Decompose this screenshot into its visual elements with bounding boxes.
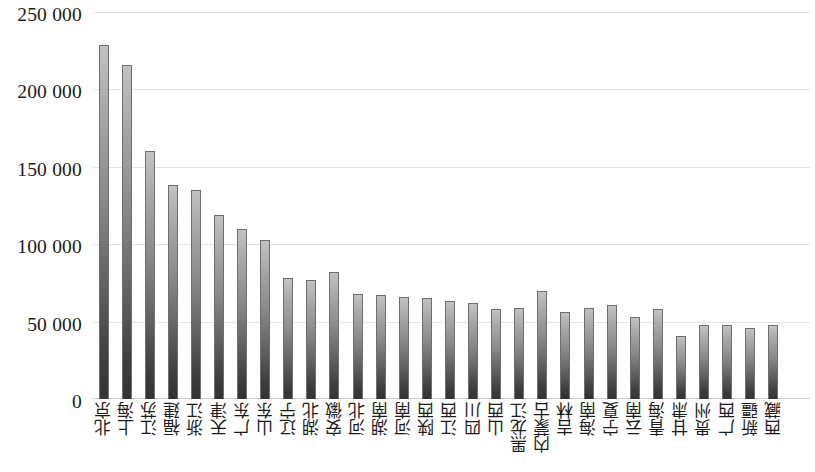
- bar-slot: [554, 12, 577, 399]
- x-tick-slot: 山西: [485, 402, 508, 472]
- bar[interactable]: [722, 325, 732, 399]
- x-tick-label: 云南: [626, 402, 643, 436]
- bar-slot: [369, 12, 392, 399]
- x-tick-label: 浙江: [187, 402, 204, 436]
- x-tick-slot: 湖北: [300, 402, 323, 472]
- bar-slot: [161, 12, 184, 399]
- bar[interactable]: [260, 240, 270, 399]
- x-tick-label: 安徽: [326, 402, 343, 436]
- bar[interactable]: [283, 278, 293, 399]
- bar[interactable]: [607, 305, 617, 399]
- bar[interactable]: [514, 308, 524, 399]
- bar[interactable]: [168, 185, 178, 399]
- x-tick-slot: 河北: [346, 402, 369, 472]
- bar[interactable]: [768, 325, 778, 399]
- bar[interactable]: [214, 215, 224, 399]
- x-tick-label: 河南: [395, 402, 412, 436]
- x-tick-slot: 浙江: [184, 402, 207, 472]
- y-tick-label: 50 000: [27, 314, 82, 336]
- bar[interactable]: [653, 309, 663, 399]
- bar[interactable]: [329, 272, 339, 399]
- bar[interactable]: [353, 294, 363, 399]
- bar[interactable]: [745, 328, 755, 399]
- bar-slot: [300, 12, 323, 399]
- x-tick-label: 陕西: [418, 402, 435, 436]
- bar[interactable]: [376, 295, 386, 399]
- x-tick-slot: 辽宁: [277, 402, 300, 472]
- y-tick-label: 250 000: [17, 4, 82, 26]
- x-tick-label: 内蒙古: [534, 402, 551, 453]
- bar[interactable]: [699, 325, 709, 399]
- bar[interactable]: [630, 317, 640, 399]
- x-tick-label: 福建: [164, 402, 181, 436]
- x-tick-slot: 西藏: [762, 402, 785, 472]
- bar-slot: [692, 12, 715, 399]
- x-tick-label: 江苏: [141, 402, 158, 436]
- x-tick-slot: 吉林: [554, 402, 577, 472]
- x-tick-label: 上海: [118, 402, 135, 436]
- bar-slot: [646, 12, 669, 399]
- x-tick-slot: 福建: [161, 402, 184, 472]
- x-tick-label: 河北: [349, 402, 366, 436]
- bar[interactable]: [399, 297, 409, 399]
- x-tick-label: 吉林: [557, 402, 574, 436]
- x-tick-slot: 湖南: [369, 402, 392, 472]
- x-tick-slot: 河南: [392, 402, 415, 472]
- plot-area: [92, 12, 810, 399]
- x-tick-slot: 天津: [207, 402, 230, 472]
- bar[interactable]: [237, 229, 247, 399]
- bar[interactable]: [445, 301, 455, 399]
- bar-slot: [254, 12, 277, 399]
- x-tick-label: 青海: [649, 402, 666, 436]
- bar-slot: [184, 12, 207, 399]
- bar-slot: [392, 12, 415, 399]
- bar[interactable]: [145, 151, 155, 399]
- x-tick-slot: 青海: [646, 402, 669, 472]
- x-tick-slot: 贵州: [692, 402, 715, 472]
- x-tick-label: 贵州: [695, 402, 712, 436]
- bar-slot: [739, 12, 762, 399]
- bar-slot: [508, 12, 531, 399]
- bar[interactable]: [584, 308, 594, 399]
- x-tick-label: 新疆: [742, 402, 759, 436]
- bar[interactable]: [306, 280, 316, 399]
- bar-slot: [716, 12, 739, 399]
- bar[interactable]: [491, 309, 501, 399]
- bar-series: [92, 12, 810, 399]
- x-tick-slot: 四川: [462, 402, 485, 472]
- x-tick-slot: 山东: [254, 402, 277, 472]
- x-tick-label: 江西: [441, 402, 458, 436]
- bar[interactable]: [191, 190, 201, 399]
- x-tick-label: 西藏: [765, 402, 782, 436]
- x-tick-slot: 黑龙江: [508, 402, 531, 472]
- x-tick-label: 甘肃: [672, 402, 689, 436]
- x-tick-label: 宁夏: [603, 402, 620, 436]
- x-tick-slot: 云南: [623, 402, 646, 472]
- bar-slot: [207, 12, 230, 399]
- bar[interactable]: [122, 65, 132, 399]
- bar-slot: [323, 12, 346, 399]
- x-tick-slot: 新疆: [739, 402, 762, 472]
- bar-slot: [577, 12, 600, 399]
- x-tick-slot: 北京: [92, 402, 115, 472]
- x-tick-slot: 内蒙古: [531, 402, 554, 472]
- bar[interactable]: [676, 336, 686, 399]
- bar-slot: [277, 12, 300, 399]
- bar[interactable]: [537, 291, 547, 399]
- y-tick-label: 150 000: [17, 159, 82, 181]
- x-tick-label: 湖北: [303, 402, 320, 436]
- bar[interactable]: [99, 45, 109, 399]
- x-tick-label: 天津: [211, 402, 228, 436]
- x-tick-slot: 江西: [438, 402, 461, 472]
- bar[interactable]: [468, 303, 478, 399]
- bar[interactable]: [422, 298, 432, 399]
- bar[interactable]: [560, 312, 570, 399]
- bar-slot: [438, 12, 461, 399]
- x-tick-slot: 海南: [577, 402, 600, 472]
- y-tick-label: 200 000: [17, 81, 82, 103]
- x-axis: 北京上海江苏福建浙江天津广东山东辽宁湖北安徽河北湖南河南陕西江西四川山西黑龙江内…: [92, 402, 810, 472]
- x-tick-label: 海南: [580, 402, 597, 436]
- x-tick-label: 广西: [719, 402, 736, 436]
- bar-slot: [600, 12, 623, 399]
- x-tick-slot: 广东: [231, 402, 254, 472]
